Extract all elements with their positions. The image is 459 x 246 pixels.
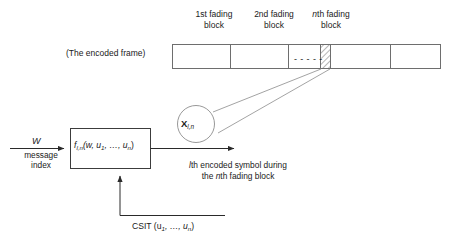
output-caption-line2: th fading block bbox=[220, 171, 274, 181]
encoder-function-formula: fl,n(w, u1, …, un) bbox=[74, 140, 134, 151]
fading-block-n-label: nth fading block bbox=[300, 9, 362, 30]
encoder-args-open: (w, u bbox=[83, 140, 101, 150]
output-caption-line2-pre: the bbox=[202, 171, 216, 181]
csit-prefix: CSIT (u bbox=[132, 221, 161, 231]
encoded-frame-caption: (The encoded frame) bbox=[66, 48, 145, 59]
message-index-caption-line1: message bbox=[24, 150, 58, 160]
fading-block-2-label: 2nd fading block bbox=[245, 9, 303, 30]
fading-block-2-line2: block bbox=[264, 20, 284, 30]
csit-close: ) bbox=[191, 221, 194, 231]
encoder-args-mid: , …, u bbox=[105, 140, 128, 150]
diagram-canvas: 1st fading block 2nd fading block nth fa… bbox=[0, 0, 459, 246]
fading-block-1-line1: 1st fading bbox=[196, 9, 233, 19]
message-index-caption-line2: index bbox=[31, 160, 51, 170]
csit-feed-line bbox=[120, 176, 225, 216]
encoded-symbol-caption: lth encoded symbol during the nth fading… bbox=[162, 160, 314, 181]
fading-block-n-line2: block bbox=[321, 20, 341, 30]
fading-block-2-line1: 2nd fading bbox=[254, 9, 294, 19]
frame-ellipsis-marks: - - - - - bbox=[294, 54, 323, 64]
symbol-subscript: l,n bbox=[187, 123, 194, 130]
magnifier-leader-lines bbox=[213, 69, 330, 133]
message-index-symbol: W bbox=[32, 136, 41, 146]
diagram-vector-layer bbox=[0, 0, 459, 246]
csit-label: CSIT (u1, …, un) bbox=[132, 221, 194, 232]
fading-block-1-line2: block bbox=[204, 20, 224, 30]
fading-block-n-line1: th fading bbox=[317, 9, 350, 19]
encoder-args-close: ) bbox=[131, 140, 134, 150]
output-caption-line1: th encoded symbol during bbox=[191, 160, 287, 170]
csit-mid: , …, u bbox=[165, 221, 188, 231]
magnified-symbol-label: Xl,n bbox=[181, 118, 194, 130]
message-index-caption: message index bbox=[13, 150, 69, 170]
fading-block-1-label: 1st fading block bbox=[186, 9, 242, 30]
